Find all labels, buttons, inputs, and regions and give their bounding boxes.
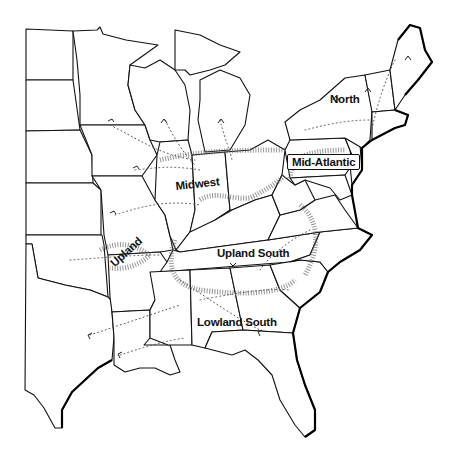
region-label-lowland-south: Lowland South — [197, 316, 277, 328]
region-label-upland-south: Upland South — [217, 247, 289, 259]
region-label-mid-atlantic: Mid-Atlantic — [287, 154, 360, 170]
region-label-north: North — [330, 93, 360, 105]
eastern-us-map — [0, 0, 457, 455]
state-outlines — [25, 25, 432, 437]
